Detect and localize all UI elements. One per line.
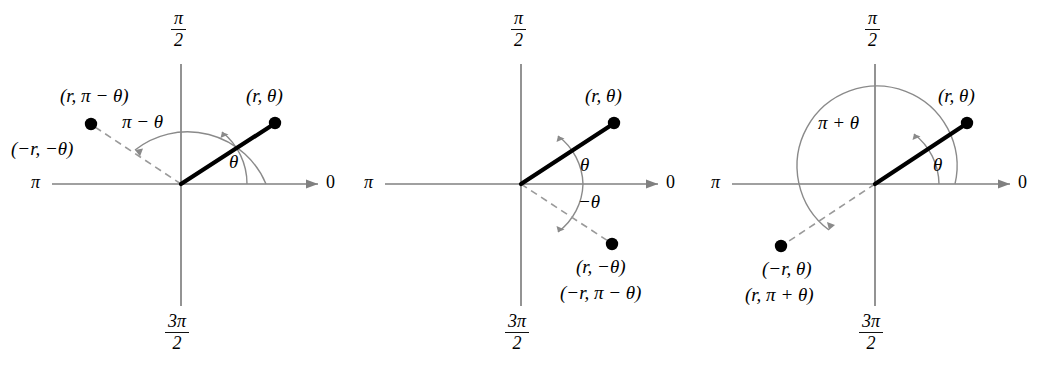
3pi-over-2-numerator: 3π [505,312,529,332]
pi-over-2-denominator: 2 [511,29,526,50]
point-label-primary: (r, θ) [246,86,283,105]
point-primary [269,117,281,129]
3pi-over-2-numerator: 3π [165,312,189,332]
primary-ray [181,124,274,184]
point-primary [608,117,620,129]
reflected-ray-dashed [95,127,181,184]
pi-over-2-numerator: π [171,9,186,29]
point-label-reflected-2: (−r, −θ) [11,139,73,158]
axis-label-zero-right: 0 [326,173,335,191]
primary-ray [521,124,613,184]
point-primary [961,117,973,129]
axis-label-3pi-over-2: 3π 2 [505,312,529,353]
diagram-panel-left: π 0 π 2 3π 2 (r, θ) (r, π − θ) (−r, −θ) … [0,0,340,372]
angle-label-pi-plus-theta: π + θ [818,113,859,132]
3pi-over-2-denominator: 2 [165,332,189,353]
axis-label-3pi-over-2: 3π 2 [859,312,883,353]
point-label-reflected-2: (−r, π − θ) [560,283,641,302]
3pi-over-2-denominator: 2 [505,332,529,353]
point-label-reflected-1: (r, −θ) [576,257,626,276]
axis-label-zero-right: 0 [666,173,675,191]
angle-label-theta: θ [580,155,589,174]
pi-over-2-numerator: π [511,9,526,29]
axis-label-pi-left: π [364,173,373,191]
primary-ray [875,124,966,184]
axis-label-3pi-over-2: 3π 2 [165,312,189,353]
point-label-opposite-1: (−r, θ) [762,259,812,278]
angle-label-negative-theta: −θ [578,192,600,211]
axis-label-pi-over-2: π 2 [865,9,880,50]
axis-label-pi-left: π [711,173,720,191]
axis-label-zero-right: 0 [1018,173,1027,191]
opposite-ray-dashed [786,184,875,243]
axis-label-pi-over-2: π 2 [511,9,526,50]
angle-label-pi-minus-theta: π − θ [122,112,163,131]
point-label-reflected-1: (r, π − θ) [60,86,129,105]
diagram-panel-right: π 0 π 2 3π 2 (r, θ) (−r, θ) (r, π + θ) θ… [690,0,1048,372]
angle-label-theta: θ [933,155,942,174]
pi-over-2-denominator: 2 [865,29,880,50]
point-reflected [85,118,97,130]
axis-label-pi-left: π [31,173,40,191]
point-reflected [606,238,618,250]
point-label-primary: (r, θ) [938,86,975,105]
point-label-opposite-2: (r, π + θ) [745,285,814,304]
axis-label-pi-over-2: π 2 [171,9,186,50]
horizontal-axis-arrowhead [646,180,658,189]
3pi-over-2-numerator: 3π [859,312,883,332]
point-label-primary: (r, θ) [585,86,622,105]
pi-over-2-denominator: 2 [171,29,186,50]
horizontal-axis-arrowhead [306,180,318,189]
horizontal-axis-arrowhead [998,180,1010,189]
pi-over-2-numerator: π [865,9,880,29]
polar-symmetry-figure: π 0 π 2 3π 2 (r, θ) (r, π − θ) (−r, −θ) … [0,0,1048,372]
3pi-over-2-denominator: 2 [859,332,883,353]
point-opposite [775,240,787,252]
angle-label-theta: θ [229,152,238,171]
diagram-panel-middle: π 0 π 2 3π 2 (r, θ) (r, −θ) (−r, π − θ) … [340,0,690,372]
